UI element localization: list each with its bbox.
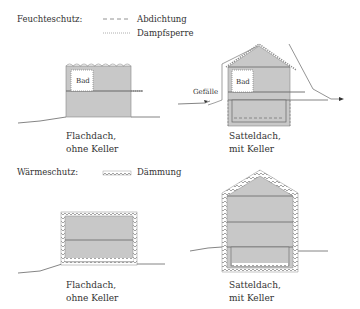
legend-thermal: Dämmung [103, 167, 182, 177]
slope-line-right [289, 44, 340, 99]
legend-label-insulation: Dämmung [137, 167, 182, 177]
caption-line1: Flachdach, [66, 131, 116, 141]
legend-label-vapor-barrier: Dampfsperre [137, 28, 194, 38]
legend-insulation-swatch [103, 171, 131, 175]
ground-line [18, 117, 66, 123]
section-title-thermal: Wärmeschutz: [17, 167, 78, 177]
caption-line1: Flachdach, [66, 280, 116, 290]
caption-line2: mit Keller [229, 293, 275, 303]
legend-moisture: Abdichtung Dampfsperre [103, 14, 194, 38]
ground-line [18, 264, 62, 273]
slope-label: Gefälle [193, 88, 218, 96]
caption-line2: mit Keller [229, 144, 275, 154]
house-gable-roof-basement-moisture: Gefälle Bad [178, 44, 344, 126]
basement [232, 100, 286, 122]
caption-line1: Satteldach, [229, 280, 281, 290]
caption-line2: ohne Keller [66, 144, 119, 154]
floor-insulation [65, 258, 133, 261]
caption-line1: Satteldach, [229, 131, 281, 141]
basement-floor-insulation [232, 263, 288, 266]
ground-line [190, 247, 222, 251]
bathroom-label: Bad [76, 77, 90, 85]
building-protection-diagram: Feuchteschutz: Abdichtung Dampfsperre Ba… [0, 0, 360, 309]
house-flat-roof-no-basement-moisture: Bad [18, 64, 160, 123]
legend-label-waterproofing: Abdichtung [136, 14, 187, 24]
bathroom-label: Bad [236, 78, 250, 86]
house-flat-roof-no-basement-thermal [18, 212, 165, 273]
caption-line2: ohne Keller [66, 293, 119, 303]
section-title-moisture: Feuchteschutz: [17, 14, 82, 24]
house-gable-roof-basement-thermal [190, 170, 328, 272]
building-body [65, 216, 133, 262]
slope-arrow-right-icon [339, 97, 344, 101]
roof-waterproofing [66, 64, 131, 66]
